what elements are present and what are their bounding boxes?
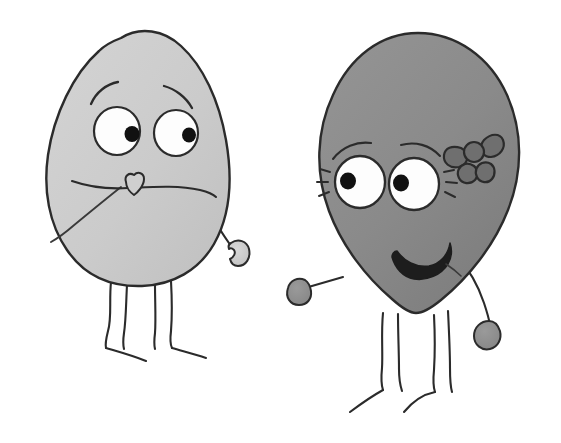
right-character-hand-right <box>474 321 501 349</box>
illustration-canvas: Two hand-drawn cartoon blob characters <box>0 0 561 443</box>
bow-center-knot <box>464 142 484 162</box>
eyelash-right-2 <box>446 182 457 183</box>
left-character-leg-right <box>154 284 155 349</box>
left-character-pupil-left <box>125 126 140 142</box>
right-character-pupil-left <box>340 173 356 190</box>
right-character-hand-left <box>287 279 311 305</box>
scene-svg: Two hand-drawn cartoon blob characters <box>0 0 561 443</box>
bow-loop-lower-left <box>458 164 478 184</box>
left-character-pupil-right <box>182 128 196 143</box>
bow-loop-lower-right <box>476 162 495 182</box>
right-character-pupil-right <box>393 175 409 192</box>
